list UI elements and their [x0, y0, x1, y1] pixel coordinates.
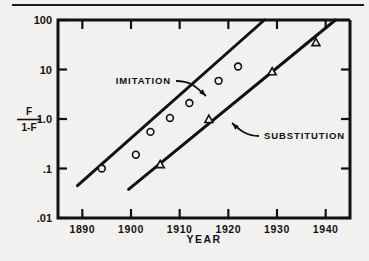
plot-frame — [58, 20, 350, 218]
x-tick-label: 1900 — [118, 223, 144, 235]
data-point-circle — [147, 128, 154, 135]
x-tick-label: 1890 — [69, 223, 95, 235]
series-label-imitation: IMITATION — [116, 75, 171, 86]
x-axis-title: YEAR — [187, 233, 222, 245]
series-fit-lines — [77, 20, 335, 189]
data-point-circle — [167, 115, 174, 122]
x-tick-label: 1940 — [313, 223, 339, 235]
data-point-circle — [215, 77, 222, 84]
data-point-circle — [98, 165, 105, 172]
y-axis-title-numerator: F — [26, 106, 32, 117]
data-point-circle — [186, 100, 193, 107]
figure-container: .01.11.010100 189019001910192019301940 I… — [0, 0, 369, 261]
data-point-triangle — [205, 115, 213, 122]
axis-ticks — [58, 20, 350, 218]
x-tick-label: 1930 — [264, 223, 290, 235]
y-tick-label: 10 — [40, 64, 52, 76]
chart-canvas: .01.11.010100 189019001910192019301940 I… — [0, 0, 369, 261]
data-point-circle — [132, 151, 139, 158]
y-axis-title-denominator: 1-F — [22, 122, 37, 133]
series-label-substitution: SUBSTITUTION — [264, 130, 345, 141]
y-tick-label: 100 — [34, 14, 52, 26]
y-tick-label: .01 — [37, 212, 52, 224]
y-axis-title: F 1-F — [17, 106, 41, 133]
y-tick-label: .1 — [43, 163, 52, 175]
data-point-circle — [235, 63, 242, 70]
